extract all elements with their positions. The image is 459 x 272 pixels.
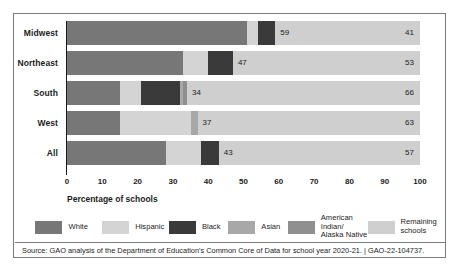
x-axis-tick-label: 0 bbox=[65, 177, 69, 186]
legend-item: Hispanic bbox=[102, 214, 169, 240]
bar-segment bbox=[67, 21, 247, 45]
segment-value-label: 37 bbox=[203, 111, 212, 135]
x-axis-tick-label: 90 bbox=[380, 177, 389, 186]
stacked-bar: 3466 bbox=[67, 81, 420, 105]
chart-legend: WhiteHispanicBlackAsianAmerican Indian/ … bbox=[21, 214, 440, 240]
legend-item: American Indian/ Alaska Native bbox=[288, 214, 368, 240]
source-note: Source: GAO analysis of the Department o… bbox=[22, 246, 424, 255]
x-axis-tick-label: 30 bbox=[168, 177, 177, 186]
bar-segment bbox=[120, 111, 191, 135]
bar-segment bbox=[67, 111, 120, 135]
legend-swatch bbox=[35, 221, 62, 234]
x-axis-tick-label: 10 bbox=[98, 177, 107, 186]
stacked-bar: 5941 bbox=[67, 21, 420, 45]
bar-row-label: Midwest bbox=[24, 21, 58, 45]
chart-frame: Midwest5941Northeast4753South3466West376… bbox=[13, 13, 446, 258]
legend-divider bbox=[15, 242, 446, 243]
segment-value-label: 59 bbox=[280, 21, 289, 45]
bar-segment bbox=[183, 51, 208, 75]
x-axis-tick-label: 70 bbox=[310, 177, 319, 186]
stacked-bar: 4753 bbox=[67, 51, 420, 75]
bar-segment bbox=[141, 81, 180, 105]
bar-row: West3763 bbox=[67, 111, 420, 135]
legend-swatch bbox=[368, 221, 395, 234]
legend-label: Remaining schools bbox=[401, 218, 437, 235]
legend-item: White bbox=[35, 214, 102, 240]
bar-row-label: West bbox=[37, 111, 58, 135]
legend-item: Remaining schools bbox=[368, 214, 440, 240]
bar-row: Midwest5941 bbox=[67, 21, 420, 45]
x-axis-tick-label: 20 bbox=[133, 177, 142, 186]
bar-segment bbox=[166, 141, 201, 165]
segment-value-label: 34 bbox=[192, 81, 201, 105]
legend-label: Asian bbox=[261, 223, 280, 232]
bar-row: Northeast4753 bbox=[67, 51, 420, 75]
remaining-value-label: 66 bbox=[386, 81, 414, 105]
remaining-value-label: 63 bbox=[386, 111, 414, 135]
bar-row-label: South bbox=[33, 81, 58, 105]
bar-segment bbox=[201, 141, 219, 165]
remaining-value-label: 41 bbox=[386, 21, 414, 45]
plot-area: Midwest5941Northeast4753South3466West376… bbox=[67, 21, 420, 175]
legend-label: White bbox=[68, 223, 87, 232]
bar-row-label: Northeast bbox=[17, 51, 58, 75]
bar-segment bbox=[208, 51, 233, 75]
chart-figure: Midwest5941Northeast4753South3466West376… bbox=[0, 0, 459, 272]
bar-segment bbox=[120, 81, 141, 105]
x-axis-tick-label: 40 bbox=[204, 177, 213, 186]
legend-label: Black bbox=[202, 223, 221, 232]
legend-swatch bbox=[228, 221, 255, 234]
bar-segment bbox=[67, 81, 120, 105]
legend-label: American Indian/ Alaska Native bbox=[321, 214, 368, 240]
bar-segment bbox=[67, 141, 166, 165]
legend-item: Black bbox=[169, 214, 228, 240]
bar-segment bbox=[191, 111, 198, 135]
remaining-value-label: 53 bbox=[386, 51, 414, 75]
legend-item: Asian bbox=[228, 214, 287, 240]
x-axis-tick-label: 100 bbox=[413, 177, 426, 186]
legend-swatch bbox=[169, 221, 196, 234]
bar-row: All4357 bbox=[67, 141, 420, 165]
remaining-value-label: 57 bbox=[386, 141, 414, 165]
bar-row: South3466 bbox=[67, 81, 420, 105]
bar-segment bbox=[247, 21, 258, 45]
segment-value-label: 43 bbox=[224, 141, 233, 165]
legend-label: Hispanic bbox=[135, 223, 164, 232]
x-axis-title: Percentage of schools bbox=[67, 194, 158, 204]
x-axis-tick-label: 80 bbox=[345, 177, 354, 186]
bar-row-label: All bbox=[47, 141, 58, 165]
bar-segment bbox=[258, 21, 276, 45]
x-axis-tick-label: 50 bbox=[239, 177, 248, 186]
stacked-bar: 4357 bbox=[67, 141, 420, 165]
segment-value-label: 47 bbox=[238, 51, 247, 75]
legend-swatch bbox=[102, 221, 129, 234]
bar-segment bbox=[67, 51, 183, 75]
x-axis-ticks: 0102030405060708090100 bbox=[67, 177, 420, 191]
stacked-bar: 3763 bbox=[67, 111, 420, 135]
legend-swatch bbox=[288, 221, 315, 234]
x-axis-tick-label: 60 bbox=[274, 177, 283, 186]
